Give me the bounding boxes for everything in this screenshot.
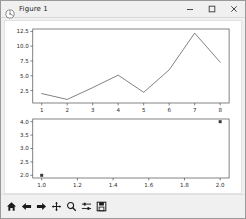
window-title-bar: Figure 1: [1, 1, 245, 18]
x-axis-tick-label: 1.2: [73, 182, 82, 188]
y-axis-tick-label: 3.0: [20, 145, 29, 151]
data-line-series: [42, 33, 220, 99]
forward-button[interactable]: [34, 199, 48, 214]
navigation-toolbar: [1, 194, 245, 218]
data-point-marker: [219, 120, 222, 123]
data-point-marker: [40, 174, 43, 177]
figure-svg-container: 123456782.55.07.510.012.51.01.21.41.61.8…: [5, 21, 241, 193]
y-axis-tick-label: 3.5: [20, 132, 29, 138]
upper-line-plot[interactable]: 123456782.55.07.510.012.5: [16, 28, 229, 113]
x-axis-tick-label: 2: [65, 107, 69, 113]
save-button[interactable]: [94, 199, 108, 214]
x-axis-tick-label: 7: [193, 107, 197, 113]
y-axis-tick-label: 2.5: [20, 88, 29, 94]
y-axis-tick-label: 4.0: [20, 119, 29, 125]
back-button[interactable]: [19, 199, 33, 214]
matplotlib-figure-icon: [5, 4, 15, 14]
minimize-button[interactable]: [179, 1, 201, 17]
maximize-button[interactable]: [201, 1, 223, 17]
home-button[interactable]: [4, 199, 18, 214]
zoom-button[interactable]: [64, 199, 78, 214]
y-axis-tick-label: 10.0: [16, 43, 29, 49]
figure-canvas[interactable]: 123456782.55.07.510.012.51.01.21.41.61.8…: [4, 20, 242, 194]
x-axis-tick-label: 1.6: [144, 182, 153, 188]
pan-button[interactable]: [49, 199, 63, 214]
x-axis-tick-label: 1.4: [109, 182, 118, 188]
x-axis-tick-label: 1: [40, 107, 44, 113]
x-axis-tick-label: 2.0: [216, 182, 225, 188]
lower-scatter-plot[interactable]: 1.01.21.41.61.82.02.02.53.03.54.0: [20, 119, 229, 188]
y-axis-tick-label: 2.5: [20, 159, 29, 165]
figure-drawing: 123456782.55.07.510.012.51.01.21.41.61.8…: [5, 21, 241, 193]
x-axis-tick-label: 1.8: [180, 182, 189, 188]
subplots-button[interactable]: [79, 199, 93, 214]
y-axis-tick-label: 2.0: [20, 172, 29, 178]
y-axis-tick-label: 7.5: [20, 58, 29, 64]
axes-frame: [33, 119, 229, 178]
close-button[interactable]: [223, 1, 245, 17]
x-axis-tick-label: 4: [116, 107, 120, 113]
window-title: Figure 1: [19, 5, 179, 13]
y-axis-tick-label: 5.0: [20, 73, 29, 79]
x-axis-tick-label: 3: [91, 107, 95, 113]
x-axis-tick-label: 6: [167, 107, 171, 113]
x-axis-tick-label: 8: [218, 107, 222, 113]
x-axis-tick-label: 1.0: [37, 182, 46, 188]
x-axis-tick-label: 5: [142, 107, 146, 113]
figure-window: Figure 1 123456782.55.07.510.012.51.01.2…: [0, 0, 246, 219]
y-axis-tick-label: 12.5: [16, 28, 29, 34]
axes-frame: [33, 29, 229, 103]
